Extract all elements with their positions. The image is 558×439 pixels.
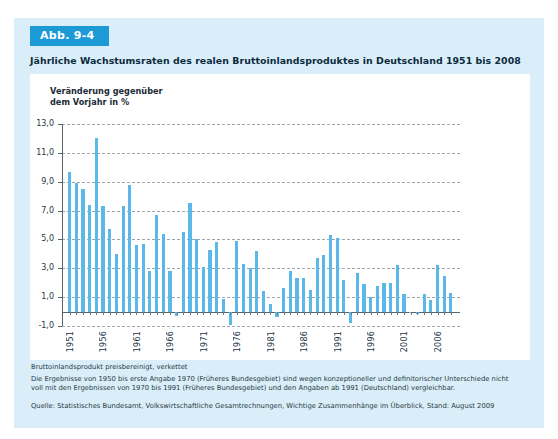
bar <box>108 229 111 311</box>
bar <box>208 250 211 312</box>
x-axis-minor-tick <box>290 312 291 315</box>
bar <box>235 241 238 312</box>
x-axis-minor-tick <box>264 312 265 315</box>
figure-notes: Bruttoinlandsprodukt preisbereinigt, ver… <box>31 363 531 394</box>
bar <box>222 299 225 312</box>
x-axis-minor-tick <box>110 312 111 315</box>
y-axis-label: 1,0 <box>20 292 54 301</box>
bar <box>302 278 305 311</box>
bar <box>423 294 426 311</box>
y-gridline <box>62 153 460 154</box>
bar <box>282 288 285 311</box>
figure-number-badge: Abb. 9-4 <box>30 26 109 46</box>
x-axis-label: 1951 <box>66 331 75 352</box>
y-axis-label: 7,0 <box>20 206 54 215</box>
y-axis-caption-line2: dem Vorjahr in % <box>50 97 163 108</box>
y-gridline <box>62 182 460 183</box>
x-axis-minor-tick <box>364 312 365 315</box>
x-axis-minor-tick <box>143 312 144 315</box>
x-axis-minor-tick <box>190 312 191 315</box>
x-axis-minor-tick <box>451 312 452 315</box>
x-axis-minor-tick <box>223 312 224 315</box>
x-axis-label: 1986 <box>300 331 309 352</box>
x-axis-minor-tick <box>304 312 305 315</box>
x-axis-minor-tick <box>417 312 418 315</box>
bar <box>122 206 125 311</box>
x-axis-label: 1971 <box>200 331 209 352</box>
x-axis-minor-tick <box>244 312 245 315</box>
x-axis-label: 1981 <box>267 331 276 352</box>
y-axis-line <box>62 124 63 326</box>
x-axis-minor-tick <box>130 312 131 315</box>
bar <box>336 238 339 312</box>
bar <box>162 234 165 312</box>
bar <box>342 280 345 312</box>
bar <box>142 244 145 312</box>
bar <box>135 245 138 311</box>
note-line-3: voll mit den Ergebnissen von 1970 bis 19… <box>31 384 531 394</box>
bar <box>429 300 432 312</box>
y-axis-label: 5,0 <box>20 234 54 243</box>
x-axis-line <box>62 312 460 313</box>
x-axis-label: 1966 <box>166 331 175 352</box>
x-axis-minor-tick <box>136 312 137 315</box>
x-axis-minor-tick <box>177 312 178 315</box>
bar-chart-plot-area: -1,01,03,05,07,09,011,013,01951195619611… <box>62 124 460 326</box>
x-axis-minor-tick <box>217 312 218 315</box>
x-axis-minor-tick <box>237 312 238 315</box>
bar <box>382 283 385 312</box>
x-axis-minor-tick <box>317 312 318 315</box>
x-axis-minor-tick <box>424 312 425 315</box>
x-axis-minor-tick <box>250 312 251 315</box>
bar <box>402 294 405 311</box>
x-axis-minor-tick <box>210 312 211 315</box>
bar <box>148 271 151 311</box>
x-axis-minor-tick <box>397 312 398 315</box>
x-axis-minor-tick <box>83 312 84 315</box>
bar <box>115 254 118 312</box>
bar <box>449 293 452 312</box>
x-axis-minor-tick <box>297 312 298 315</box>
x-axis-minor-tick <box>76 312 77 315</box>
figure-title: Jährliche Wachstumsraten des realen Brut… <box>30 55 530 66</box>
bar <box>329 235 332 311</box>
x-axis-minor-tick <box>230 312 231 315</box>
bar <box>295 278 298 311</box>
x-axis-label: 1991 <box>334 331 343 352</box>
bar <box>262 291 265 311</box>
x-axis-minor-tick <box>351 312 352 315</box>
bar <box>376 286 379 312</box>
bar <box>436 265 439 311</box>
x-axis-minor-tick <box>197 312 198 315</box>
x-axis-minor-tick <box>170 312 171 315</box>
x-axis-label: 1976 <box>233 331 242 352</box>
x-axis-minor-tick <box>284 312 285 315</box>
x-axis-minor-tick <box>103 312 104 315</box>
bar <box>443 276 446 312</box>
note-line-1: Bruttoinlandsprodukt preisbereinigt, ver… <box>31 363 531 373</box>
x-axis-minor-tick <box>310 312 311 315</box>
figure-source: Quelle: Statistisches Bundesamt, Volkswi… <box>31 402 531 410</box>
bar <box>101 206 104 311</box>
x-axis-minor-tick <box>377 312 378 315</box>
x-axis-minor-tick <box>157 312 158 315</box>
x-axis-label: 1956 <box>99 331 108 352</box>
bar <box>155 215 158 312</box>
x-axis-minor-tick <box>324 312 325 315</box>
bar <box>362 284 365 311</box>
bar <box>255 251 258 312</box>
y-axis-label: 3,0 <box>20 263 54 272</box>
bar <box>88 205 91 312</box>
bar <box>396 265 399 311</box>
bar <box>75 183 78 311</box>
bar <box>182 232 185 311</box>
bar <box>188 203 191 311</box>
x-axis-minor-tick <box>357 312 358 315</box>
x-axis-minor-tick <box>257 312 258 315</box>
bar <box>322 255 325 311</box>
x-axis-minor-tick <box>183 312 184 315</box>
y-gridline <box>62 326 460 327</box>
bar <box>369 297 372 311</box>
note-line-2: Die Ergebnisse von 1950 bis erste Angabe… <box>31 375 531 385</box>
x-axis-minor-tick <box>96 312 97 315</box>
